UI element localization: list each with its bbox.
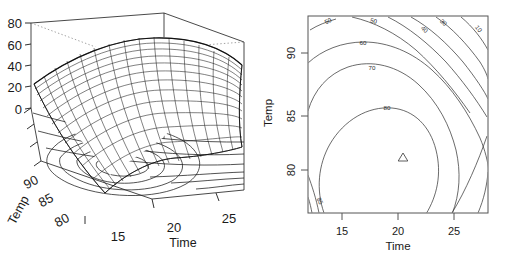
time-axis-title-3d: Time bbox=[169, 236, 196, 250]
x-axis-group-contour: 15 20 25 Time bbox=[336, 213, 460, 252]
contour-label-70: 70 bbox=[369, 64, 376, 71]
z-axis-group: 80 60 40 20 0 bbox=[8, 16, 31, 117]
y-tick-label-80-contour: 80 bbox=[285, 164, 297, 176]
time-tick-label-20-3d: 20 bbox=[167, 220, 181, 235]
time-axis-group-3d: 15 20 25 Time bbox=[85, 193, 236, 250]
y-tick-label-85-contour: 85 bbox=[285, 110, 297, 122]
surface-3d-svg: 80 60 40 20 0 bbox=[0, 0, 256, 269]
plot-frame-border bbox=[308, 16, 488, 213]
y-axis-group-contour: 90 85 80 Temp bbox=[262, 47, 308, 176]
y-tick-label-90-contour: 90 bbox=[285, 47, 297, 59]
temp-axis-group-3d: 90 85 80 Temp bbox=[5, 108, 72, 230]
panel-surface-3d: 80 60 40 20 0 bbox=[0, 0, 256, 269]
temp-tick-label-90-3d: 90 bbox=[21, 172, 41, 192]
z-tick-label-40: 40 bbox=[8, 59, 22, 74]
z-tick-label-0: 0 bbox=[15, 102, 22, 117]
x-tick-label-20-contour: 20 bbox=[392, 225, 404, 237]
x-tick-marks-contour bbox=[342, 213, 454, 220]
contour-2d-svg: 50 50 40 30 10 60 70 80 85 90 85 bbox=[256, 0, 511, 269]
x-tick-label-25-contour: 25 bbox=[448, 225, 460, 237]
temp-axis-title-3d: Temp bbox=[5, 193, 32, 227]
z-tick-label-20: 20 bbox=[8, 80, 22, 95]
y-tick-marks-contour bbox=[301, 53, 308, 170]
time-tick-label-25-3d: 25 bbox=[222, 211, 236, 226]
y-axis-title-contour: Temp bbox=[262, 99, 274, 127]
z-tick-label-60: 60 bbox=[8, 38, 22, 53]
contour-label-60: 60 bbox=[360, 39, 367, 46]
temp-tick-label-85-3d: 85 bbox=[36, 190, 56, 210]
panel-contour-2d: 50 50 40 30 10 60 70 80 85 90 85 bbox=[256, 0, 511, 269]
figure-container: 80 60 40 20 0 bbox=[0, 0, 511, 269]
time-tick-label-15-3d: 15 bbox=[111, 229, 125, 244]
z-tick-marks bbox=[25, 23, 31, 109]
time-tick-marks bbox=[85, 193, 219, 224]
x-tick-label-15-contour: 15 bbox=[336, 225, 348, 237]
temp-tick-label-80-3d: 80 bbox=[52, 210, 72, 230]
x-axis-title-contour: Time bbox=[385, 240, 410, 252]
z-tick-label-80: 80 bbox=[8, 16, 22, 31]
contour-label-80: 80 bbox=[384, 104, 391, 111]
